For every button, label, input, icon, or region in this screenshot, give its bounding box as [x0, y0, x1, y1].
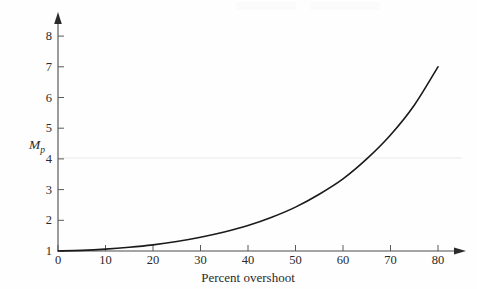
axes-group: [54, 12, 466, 255]
y-tick-label: 7: [38, 59, 52, 74]
x-tick-label: 20: [147, 253, 160, 268]
x-tick-label: 10: [99, 253, 112, 268]
y-tick-label: 6: [38, 90, 52, 105]
x-tick-label: 80: [432, 253, 445, 268]
y-tick-label: 1: [38, 244, 52, 259]
y-axis-title: Mp: [24, 137, 50, 155]
y-axis-title-main: M: [29, 137, 40, 152]
y-tick-marks: [58, 36, 64, 251]
x-tick-label: 0: [55, 253, 61, 268]
y-tick-label: 2: [38, 213, 52, 228]
y-tick-label: 3: [38, 182, 52, 197]
y-axis-title-subscript: p: [40, 145, 45, 155]
x-axis-title: Percent overshoot: [201, 270, 295, 286]
y-axis-arrowhead: [54, 12, 62, 24]
x-tick-label: 50: [289, 253, 302, 268]
data-series-curve: [58, 67, 438, 251]
y-tick-label: 8: [38, 29, 52, 44]
figure-container: 1 2 3 4 5 6 7 8 0 10 20 30 40 50 60 70 8…: [0, 0, 477, 289]
x-tick-label: 30: [194, 253, 207, 268]
x-tick-label: 70: [384, 253, 397, 268]
x-axis-arrowhead: [454, 247, 466, 254]
plot-area: [0, 0, 477, 289]
x-tick-label: 40: [242, 253, 255, 268]
y-tick-label: 5: [38, 121, 52, 136]
x-tick-label: 60: [337, 253, 350, 268]
